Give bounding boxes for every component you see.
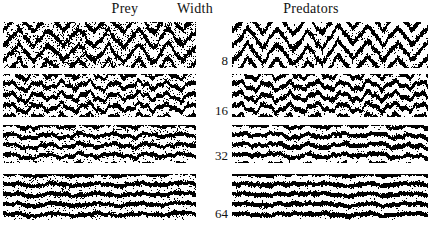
column-header-width: Width <box>165 1 225 17</box>
texture-canvas <box>232 125 428 163</box>
texture-canvas <box>3 174 196 220</box>
width-label-8: 8 <box>196 53 228 69</box>
texture-panel-predators-width-16 <box>232 74 428 117</box>
texture-canvas <box>232 174 428 220</box>
width-label-16: 16 <box>196 103 228 119</box>
width-label-32: 32 <box>196 148 228 164</box>
texture-panel-prey-width-32 <box>3 125 196 163</box>
texture-panel-predators-width-64 <box>232 174 428 220</box>
column-header-prey: Prey <box>95 1 155 17</box>
column-header-predators: Predators <box>275 1 347 17</box>
texture-canvas <box>3 125 196 163</box>
texture-panel-predators-width-8 <box>232 22 428 68</box>
texture-canvas <box>232 22 428 68</box>
figure-panel-grid: Prey Width Predators 8163264 <box>0 0 434 232</box>
texture-canvas <box>232 74 428 117</box>
texture-canvas <box>3 74 196 117</box>
texture-canvas <box>3 22 196 68</box>
texture-panel-predators-width-32 <box>232 125 428 163</box>
texture-panel-prey-width-64 <box>3 174 196 220</box>
width-label-64: 64 <box>196 206 228 222</box>
texture-panel-prey-width-16 <box>3 74 196 117</box>
texture-panel-prey-width-8 <box>3 22 196 68</box>
